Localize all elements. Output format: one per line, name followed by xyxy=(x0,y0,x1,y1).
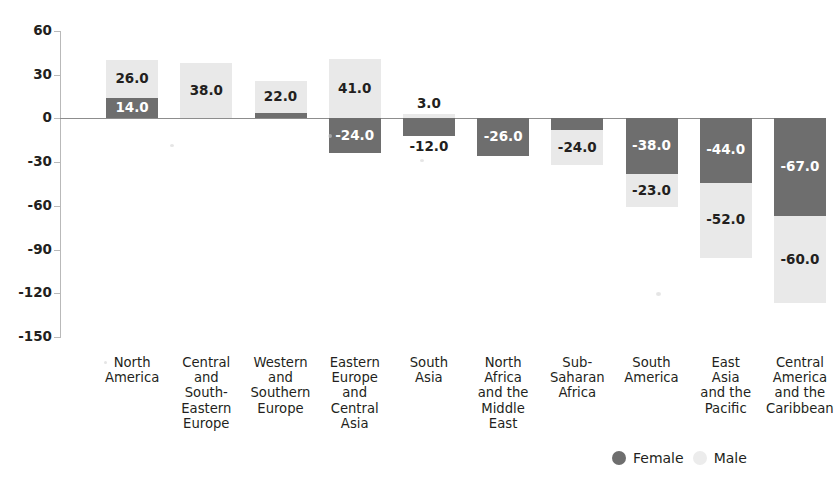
bar-value-label: 26.0 xyxy=(115,72,148,86)
bar-group[interactable]: -24.041.0 xyxy=(329,31,381,337)
x-category-label: NorthAmerica xyxy=(95,355,169,385)
bar-value-label: 38.0 xyxy=(190,84,223,98)
bar-segment-female[interactable] xyxy=(403,118,455,135)
y-tick-label: -30 xyxy=(6,155,52,169)
bar-group[interactable]: -8.0-24.0 xyxy=(551,31,603,337)
y-tick-mark xyxy=(54,250,61,251)
x-category-label: WesternandSouthernEurope xyxy=(243,355,317,416)
x-category-label: CentralAmericaand theCaribbean xyxy=(763,355,837,416)
y-axis-spine xyxy=(60,31,61,337)
legend-swatch-male-icon xyxy=(693,451,707,465)
bar-segment-female[interactable] xyxy=(551,118,603,130)
legend-label-male: Male xyxy=(714,450,747,466)
bar-value-label: -52.0 xyxy=(706,213,745,227)
bar-value-label: -44.0 xyxy=(706,143,745,157)
bar-value-label: 14.0 xyxy=(115,101,148,115)
plot-area: 14.026.038.04.022.0-24.041.0-12.03.0-26.… xyxy=(60,31,802,337)
chart-title xyxy=(0,0,802,2)
y-tick-label: -150 xyxy=(6,330,52,344)
y-tick-label: -60 xyxy=(6,199,52,213)
y-tick-mark xyxy=(54,75,61,76)
bar-value-label: 22.0 xyxy=(264,90,297,104)
y-tick-mark xyxy=(54,162,61,163)
y-tick-label: -120 xyxy=(6,286,52,300)
bar-value-label: 3.0 xyxy=(417,97,441,111)
scan-speckle xyxy=(656,292,661,296)
bar-group[interactable]: -67.0-60.0 xyxy=(774,31,826,337)
legend-item-male[interactable]: Male xyxy=(693,450,747,466)
x-category-label: EasternEuropeandCentralAsia xyxy=(318,355,392,431)
bar-value-label: -24.0 xyxy=(335,129,374,143)
bar-group[interactable]: 4.022.0 xyxy=(255,31,307,337)
y-axis-labels: 60300-30-60-90-120-150 xyxy=(0,31,52,337)
y-tick-mark xyxy=(54,293,61,294)
bar-group[interactable]: 38.0 xyxy=(180,31,232,337)
bar-value-label: -24.0 xyxy=(558,141,597,155)
bar-value-label: -67.0 xyxy=(780,160,819,174)
y-tick-label: -90 xyxy=(6,243,52,257)
bar-value-label: -38.0 xyxy=(632,139,671,153)
bar-value-label: -26.0 xyxy=(484,130,523,144)
legend-label-female: Female xyxy=(633,450,684,466)
x-category-label: SouthAsia xyxy=(392,355,466,385)
bar-value-label: -60.0 xyxy=(780,253,819,267)
x-category-label: Sub-SaharanAfrica xyxy=(540,355,614,401)
scan-speckle xyxy=(420,159,424,162)
y-tick-label: 0 xyxy=(6,111,52,125)
bar-segment-female[interactable] xyxy=(255,113,307,119)
y-tick-mark xyxy=(54,337,61,338)
y-tick-label: 60 xyxy=(6,24,52,38)
bar-value-label: 41.0 xyxy=(338,82,371,96)
bar-group[interactable]: -26.0 xyxy=(477,31,529,337)
scan-speckle xyxy=(328,134,332,138)
bar-group[interactable]: -44.0-52.0 xyxy=(700,31,752,337)
x-category-label: EastAsiaand thePacific xyxy=(689,355,763,416)
chart-legend: Female Male xyxy=(612,450,747,466)
y-tick-label: 30 xyxy=(6,68,52,82)
y-tick-mark xyxy=(54,206,61,207)
x-category-label: CentralandSouth-EasternEurope xyxy=(169,355,243,431)
bar-value-label: -12.0 xyxy=(409,140,448,154)
x-category-label: NorthAfricaand theMiddleEast xyxy=(466,355,540,431)
bar-group[interactable]: -38.0-23.0 xyxy=(626,31,678,337)
bar-group[interactable]: 14.026.0 xyxy=(106,31,158,337)
x-category-label: SouthAmerica xyxy=(614,355,688,385)
y-tick-mark xyxy=(54,31,61,32)
bar-value-label: -23.0 xyxy=(632,184,671,198)
legend-swatch-female-icon xyxy=(612,451,626,465)
bar-segment-male[interactable] xyxy=(403,114,455,118)
x-axis-category-labels: NorthAmericaCentralandSouth-EasternEurop… xyxy=(60,355,802,440)
scan-speckle xyxy=(170,144,174,147)
bar-group[interactable]: -12.03.0 xyxy=(403,31,455,337)
legend-item-female[interactable]: Female xyxy=(612,450,684,466)
